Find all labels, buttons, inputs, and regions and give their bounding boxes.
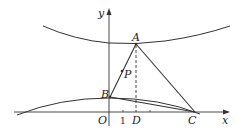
tick-label-1: 1 bbox=[120, 116, 126, 126]
label-d: D bbox=[131, 114, 141, 127]
label-origin: O bbox=[98, 114, 107, 127]
y-axis bbox=[107, 8, 112, 126]
segment-ac bbox=[136, 44, 195, 112]
label-p: P bbox=[123, 68, 132, 81]
point-b bbox=[109, 96, 111, 98]
label-b: B bbox=[100, 88, 109, 101]
x-axis bbox=[14, 110, 230, 115]
point-p bbox=[121, 70, 124, 73]
label-a: A bbox=[131, 31, 140, 44]
label-c: C bbox=[188, 114, 197, 127]
label-x: x bbox=[222, 114, 229, 127]
diagram: y x A B C D P O 1 bbox=[0, 0, 242, 133]
label-y: y bbox=[97, 7, 105, 20]
segment-bc bbox=[110, 97, 195, 112]
